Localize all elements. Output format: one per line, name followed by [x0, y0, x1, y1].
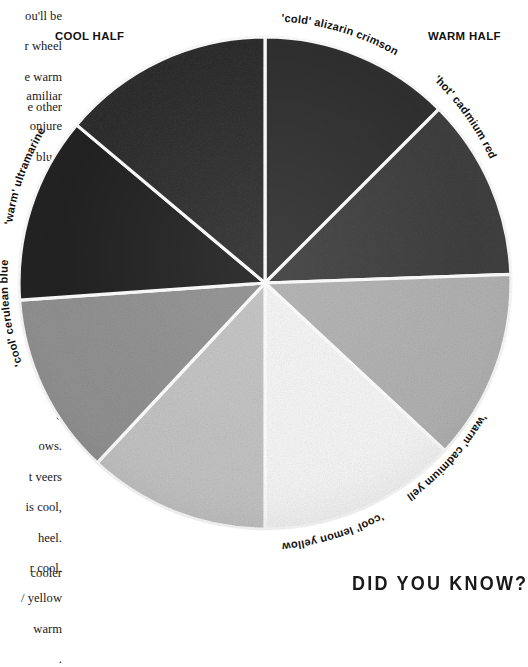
- colour-wheel-chart: [17, 35, 514, 532]
- wheel-vignette: [18, 36, 512, 530]
- body-text-block-4: cooler: [0, 565, 62, 595]
- body-line: ou'll be: [0, 8, 62, 25]
- body-line: cooler: [0, 565, 62, 582]
- did-you-know-heading: DID YOU KNOW?: [352, 572, 528, 596]
- body-line: warm: [0, 621, 62, 638]
- pie-chart-svg: [17, 35, 514, 532]
- body-line: heel.: [0, 530, 62, 547]
- body-line: .: [0, 651, 62, 667]
